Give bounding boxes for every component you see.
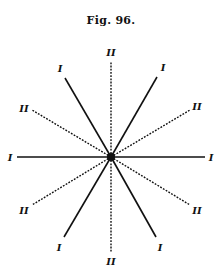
ray-dashed-8	[32, 157, 111, 205]
ray-label: II	[18, 103, 29, 114]
ray-label: I	[160, 62, 166, 73]
radial-line-diagram: IIIIIIIIIIIIIIIIII	[0, 0, 222, 279]
ray-label: I	[208, 152, 214, 163]
ray-solid-5	[111, 157, 156, 237]
ray-label: II	[191, 205, 202, 216]
ray-solid-7	[64, 157, 111, 237]
ray-dashed-10	[32, 110, 111, 157]
ray-solid-1	[111, 77, 157, 157]
ray-label: II	[105, 256, 116, 267]
ray-label: I	[7, 152, 13, 163]
ray-label: I	[56, 242, 62, 253]
center-point	[107, 153, 115, 161]
ray-dashed-4	[111, 157, 190, 205]
ray-label: I	[157, 242, 163, 253]
ray-label: I	[57, 63, 63, 74]
ray-label: II	[191, 101, 202, 112]
ray-dashed-2	[111, 110, 190, 157]
ray-label: II	[18, 205, 29, 216]
ray-label: II	[105, 47, 116, 58]
ray-solid-11	[65, 78, 111, 157]
